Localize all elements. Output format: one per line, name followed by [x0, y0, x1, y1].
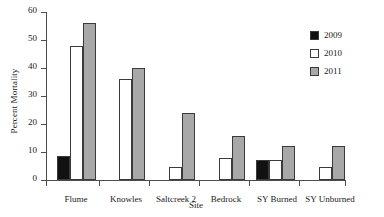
- bar-bedrock-2010: [219, 158, 232, 180]
- x-tick-end: [345, 181, 346, 186]
- bar-sy-unburned-2011: [332, 146, 345, 180]
- x-axis-line: [46, 180, 346, 181]
- legend-label-2011: 2011: [324, 67, 342, 76]
- legend-item-2010: 2010: [310, 44, 342, 62]
- legend-item-2009: 2009: [310, 26, 342, 44]
- bar-bedrock-2011: [232, 136, 245, 180]
- bar-sy-burned-2011: [282, 146, 295, 180]
- bar-flume-2009: [57, 156, 70, 180]
- y-tick-label-40: 40: [28, 61, 37, 71]
- x-tick-1: [99, 181, 100, 186]
- bar-sy-unburned-2010: [319, 167, 332, 180]
- x-tick-start: [46, 181, 47, 186]
- y-tick-label-30: 30: [28, 89, 37, 99]
- y-tick-label-10: 10: [28, 145, 37, 155]
- bar-group-knowles: [99, 12, 149, 180]
- legend-item-2011: 2011: [310, 62, 342, 80]
- y-tick-label-0: 0: [33, 173, 38, 183]
- bar-group-bedrock: [199, 12, 249, 180]
- legend: 2009 2010 2011: [310, 26, 342, 80]
- bar-saltcreek-2-2011: [182, 113, 195, 180]
- bar-knowles-2010: [119, 79, 132, 180]
- x-tick-5: [299, 181, 300, 186]
- bar-flume-2011: [83, 23, 96, 180]
- legend-swatch-2011-icon: [310, 67, 319, 76]
- bar-flume-2010: [70, 46, 83, 180]
- y-tick-label-20: 20: [28, 117, 37, 127]
- legend-label-2010: 2010: [324, 49, 342, 58]
- plot-area: 0 10 20 30 40 50 60: [46, 12, 346, 181]
- x-axis-title: Site: [46, 200, 346, 210]
- y-tick-label-60: 60: [28, 5, 37, 15]
- y-axis-title: Percent Mortality: [9, 36, 19, 166]
- bar-sy-burned-2009: [256, 160, 269, 180]
- bar-sy-burned-2010: [269, 160, 282, 180]
- legend-label-2009: 2009: [324, 31, 342, 40]
- bar-chart: Percent Mortality 0 10 20 30 40 50 60: [0, 0, 384, 217]
- legend-swatch-2009-icon: [310, 31, 319, 40]
- x-tick-2: [149, 181, 150, 186]
- bar-saltcreek-2-2010: [169, 167, 182, 180]
- y-tick-label-50: 50: [28, 33, 37, 43]
- x-tick-4: [249, 181, 250, 186]
- bar-group-sy-burned: [249, 12, 299, 180]
- bar-group-flume: [46, 12, 99, 180]
- legend-swatch-2010-icon: [310, 49, 319, 58]
- x-tick-3: [199, 181, 200, 186]
- bar-knowles-2011: [132, 68, 145, 180]
- bar-group-saltcreek-2: [149, 12, 199, 180]
